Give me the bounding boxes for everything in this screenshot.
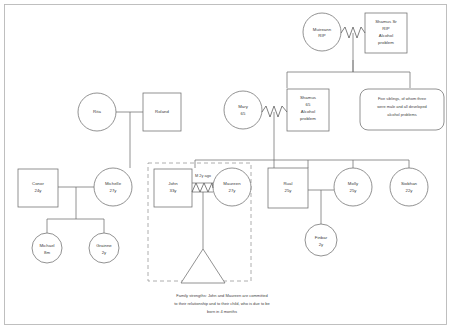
caption-line-3: born in 4 months xyxy=(207,309,237,314)
node-muireann[interactable] xyxy=(303,13,341,51)
node-maureen-label: Maureen xyxy=(223,181,241,186)
node-shamus-label: Shamus xyxy=(300,95,316,100)
node-mary-label: Mary xyxy=(238,104,249,109)
relationship-rual-molly xyxy=(308,190,334,224)
node-roland-label: Roland xyxy=(155,109,169,114)
node-grainne-line2: 2y xyxy=(102,250,107,255)
genogram-diagram: Muireann RIP Shamus Sr RIP Alcohol probl… xyxy=(0,0,451,329)
node-shamus-sr-line3: Alcohol xyxy=(379,33,393,38)
node-conor-line2: 24y xyxy=(34,188,42,193)
node-unborn-triangle[interactable] xyxy=(181,249,225,283)
siblings-note-line2: were male and all developed xyxy=(377,104,427,109)
node-conor-label: Conor xyxy=(32,181,44,186)
node-john-line2: 33y xyxy=(169,188,177,193)
siblings-note-line3: alcohol problems xyxy=(387,112,416,117)
node-rita-label: Rita xyxy=(93,109,101,114)
node-grainne-label: Grainne xyxy=(96,243,112,248)
node-michael-label: Michael xyxy=(39,243,54,248)
node-molly-line2: 25y xyxy=(349,188,357,193)
node-shamus-sr-line4: problem xyxy=(378,40,394,45)
node-michael-line2: 8m xyxy=(44,250,50,255)
node-shamus-line4: problem xyxy=(300,116,316,121)
node-rual-line2: 25y xyxy=(284,188,292,193)
node-john-label: John xyxy=(168,181,178,186)
node-finbar-label: Finbar xyxy=(315,235,328,240)
node-shamus-line2: 65 xyxy=(306,102,311,107)
node-rual-label: Rual xyxy=(283,181,292,186)
siblings-note-line1: Five siblings, of whom three xyxy=(378,96,426,101)
node-michelle-label: Michelle xyxy=(105,181,122,186)
node-finbar-line2: 2y xyxy=(319,242,324,247)
node-muireann-label: Muireann xyxy=(313,27,332,32)
node-mary-line2: 65 xyxy=(241,111,246,116)
node-shamus-sr-line2: RIP xyxy=(382,26,389,31)
marriage-label-john-maureen: M 2y ago xyxy=(195,173,211,178)
node-siobhan-line2: 22y xyxy=(405,188,413,193)
caption-line-1: Family strengths: John and Maureen are c… xyxy=(176,293,267,298)
node-molly-label: Molly xyxy=(348,181,359,186)
node-shamus-line3: Alcohol xyxy=(301,109,315,114)
node-siobhan-label: Siobhan xyxy=(401,181,418,186)
caption-line-2: to their relationship and to their child… xyxy=(174,301,270,306)
node-maureen-line2: 27y xyxy=(228,188,236,193)
node-shamus-sr-label: Shamus Sr xyxy=(375,19,397,24)
relationship-john-maureen-zigzag xyxy=(192,183,213,192)
relationship-conflict-mary-shamus xyxy=(262,106,287,117)
genogram-canvas: Muireann RIP Shamus Sr RIP Alcohol probl… xyxy=(0,0,451,329)
node-muireann-line2: RIP xyxy=(318,33,325,38)
node-michelle-line2: 27y xyxy=(109,188,117,193)
